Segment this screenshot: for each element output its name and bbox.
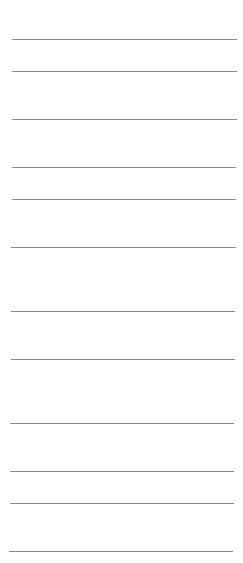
ruled-line (11, 359, 235, 360)
ruled-line (10, 423, 234, 424)
ruled-line (12, 199, 236, 200)
ruled-line (9, 551, 233, 552)
ruled-paper (0, 0, 243, 563)
ruled-line (10, 503, 234, 504)
ruled-line (12, 71, 237, 72)
ruled-line (12, 167, 236, 168)
ruled-line (11, 247, 236, 248)
ruled-line (12, 39, 237, 40)
ruled-line (11, 311, 235, 312)
ruled-line (12, 119, 237, 120)
ruled-line (10, 471, 234, 472)
